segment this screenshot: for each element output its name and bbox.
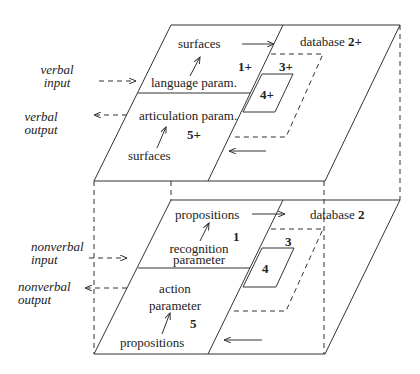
lower-action-word2: parameter xyxy=(140,297,210,314)
upper-database-text: database xyxy=(300,34,345,49)
nonverbal-output-word2: output xyxy=(18,293,71,306)
diagram-lines xyxy=(0,0,420,374)
lower-region-3: 3 xyxy=(285,235,292,248)
upper-database-label: database 2+ xyxy=(300,35,362,48)
diagram-root: verbal input verbal output surfaces 1+ l… xyxy=(0,0,420,374)
nonverbal-output-label: nonverbal output xyxy=(18,280,71,306)
lower-propositions-top: propositions xyxy=(175,208,239,221)
upper-region-4: 4+ xyxy=(260,88,274,101)
upper-language-up-arrow xyxy=(190,57,200,76)
verbal-output-word2: output xyxy=(18,123,64,136)
verbal-output-label: verbal output xyxy=(18,110,64,136)
lower-region-4: 4 xyxy=(262,262,269,275)
lower-plane xyxy=(94,200,400,354)
lower-action-word1: action xyxy=(140,280,210,297)
lower-dashed-box-3 xyxy=(232,229,323,311)
lower-propositions-bottom: propositions xyxy=(120,336,184,349)
nonverbal-input-label: nonverbal input xyxy=(31,240,84,266)
upper-surfaces-bottom: surfaces xyxy=(128,149,171,162)
verbal-input-word2: input xyxy=(34,76,80,89)
lower-action-up-arrow xyxy=(162,313,170,334)
upper-region-1: 1+ xyxy=(238,60,252,73)
upper-language-param: language param. xyxy=(151,76,237,89)
nonverbal-input-word2: input xyxy=(31,253,84,266)
upper-region-5: 5+ xyxy=(187,128,201,141)
lower-recognition-parameter: recognition parameter xyxy=(164,243,234,265)
lower-action-parameter: action parameter xyxy=(140,280,210,314)
upper-surfaces-top: surfaces xyxy=(178,37,221,50)
upper-database-number: 2+ xyxy=(348,34,362,49)
lower-database-label: database 2 xyxy=(310,208,365,221)
lower-divider xyxy=(208,200,283,354)
lower-recognition-up-arrow xyxy=(200,223,209,241)
upper-articulation-param: articulation param. xyxy=(139,109,237,122)
lower-region-5: 5 xyxy=(190,317,197,330)
upper-region-3: 3+ xyxy=(279,60,293,73)
lower-region-1: 1 xyxy=(233,230,240,243)
lower-database-number: 2 xyxy=(358,207,365,222)
lower-recognition-word2: parameter xyxy=(164,254,234,265)
lower-database-text: database xyxy=(310,207,355,222)
upper-articulation-up-arrow xyxy=(157,127,166,148)
verbal-input-label: verbal input xyxy=(34,63,80,89)
